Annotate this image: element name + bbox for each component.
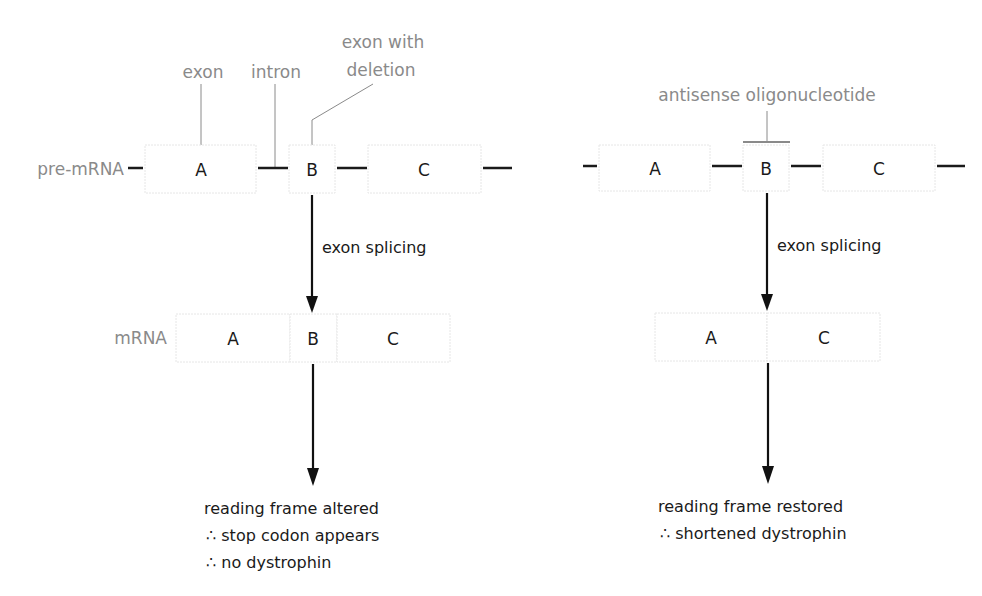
outcome-line-3: ∴ no dystrophin <box>206 553 331 572</box>
arrow-head-icon <box>306 296 318 313</box>
outcome-line-2: ∴ stop codon appears <box>206 526 379 545</box>
outcome-line-2: ∴ shortened dystrophin <box>660 524 847 543</box>
mrna-exon-c: C <box>337 314 450 362</box>
arrow-head-icon <box>307 468 319 486</box>
splicing-label: exon splicing <box>322 238 426 257</box>
arrow-head-icon <box>762 466 774 484</box>
exon-letter: C <box>873 159 885 179</box>
mrna-exon-c: C <box>767 313 880 361</box>
exon-with-deletion-label-line2: deletion <box>347 60 416 80</box>
outcome-line-1: reading frame restored <box>658 497 843 516</box>
right-panel: antisense oligonucleotide A B C exon spl… <box>583 85 965 543</box>
pre-mrna-exon-b: B <box>289 145 335 193</box>
exon-letter: B <box>307 329 319 349</box>
arrow-head-icon <box>761 294 773 311</box>
pre-mrna-exon-c: C <box>368 145 481 193</box>
exon-letter: A <box>195 160 207 180</box>
pre-mrna-exon-b: B <box>743 145 789 191</box>
intron-label: intron <box>251 62 301 82</box>
exon-letter: A <box>649 159 661 179</box>
exon-letter: A <box>705 328 717 348</box>
exon-letter: A <box>227 329 239 349</box>
antisense-label: antisense oligonucleotide <box>658 85 876 105</box>
splicing-label: exon splicing <box>777 236 881 255</box>
deletion-leader-line <box>312 84 373 150</box>
pre-mrna-exon-a: A <box>145 145 256 193</box>
mrna-exon-a: A <box>176 314 290 362</box>
pre-mrna-label: pre-mRNA <box>37 159 124 179</box>
exon-with-deletion-label-line1: exon with <box>342 32 424 52</box>
mrna-exon-b: B <box>290 314 337 362</box>
exon-letter: C <box>818 328 830 348</box>
exon-letter: B <box>306 160 318 180</box>
pre-mrna-exon-a: A <box>599 145 710 191</box>
exon-letter: C <box>418 160 430 180</box>
exon-skipping-diagram: exon intron exon with deletion pre-mRNA … <box>0 0 982 596</box>
mrna-label: mRNA <box>114 328 167 348</box>
exon-letter: C <box>387 329 399 349</box>
outcome-line-1: reading frame altered <box>204 499 379 518</box>
exon-letter: B <box>760 159 772 179</box>
pre-mrna-exon-c: C <box>823 145 935 191</box>
mrna-exon-a: A <box>655 313 767 361</box>
exon-label: exon <box>183 62 224 82</box>
left-panel: exon intron exon with deletion pre-mRNA … <box>37 32 512 572</box>
